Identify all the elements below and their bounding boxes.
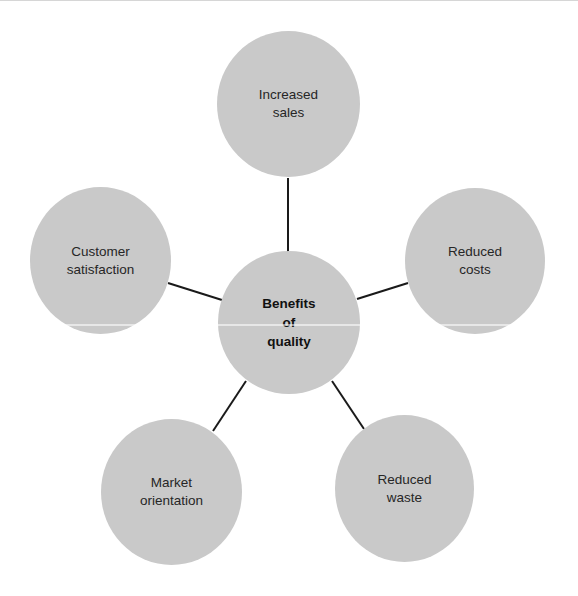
connector-customer-satisfaction [168, 283, 222, 300]
node-label: Increased sales [259, 86, 318, 122]
node-market-orientation: Market orientation [101, 419, 242, 565]
hub-label: Benefits of quality [262, 294, 315, 351]
node-increased-sales: Increased sales [217, 31, 360, 177]
node-label: Customer satisfaction [67, 243, 135, 279]
connector-reduced-waste [332, 381, 364, 429]
node-reduced-costs: Reduced costs [405, 188, 545, 334]
node-reduced-waste: Reduced waste [335, 415, 474, 562]
hub-benefits-of-quality: Benefits of quality [218, 251, 360, 394]
node-label: Reduced waste [377, 471, 431, 507]
connector-market-orientation [213, 381, 246, 431]
node-label: Reduced costs [448, 243, 502, 279]
diagram-canvas: Increased sales Reduced costs Reduced wa… [0, 0, 578, 596]
node-label: Market orientation [140, 474, 203, 510]
node-customer-satisfaction: Customer satisfaction [30, 187, 171, 334]
connector-reduced-costs [357, 283, 408, 299]
